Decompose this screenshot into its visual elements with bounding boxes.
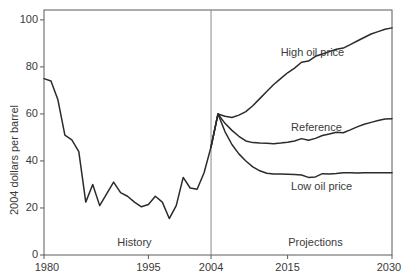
y-tick-label: 20 — [8, 201, 38, 213]
y-tick-label: 80 — [8, 60, 38, 72]
y-tick-label: 60 — [8, 107, 38, 119]
history-label: History — [117, 236, 151, 248]
x-axis-ticks — [44, 255, 392, 259]
low-oil-price-label: Low oil price — [291, 180, 352, 192]
x-tick-label: 1995 — [125, 261, 171, 273]
x-tick-label: 2030 — [366, 261, 407, 273]
y-tick-label: 40 — [8, 154, 38, 166]
y-tick-label: 100 — [8, 13, 38, 25]
reference-label: Reference — [291, 121, 342, 133]
x-tick-label: 2015 — [265, 261, 311, 273]
chart-canvas — [0, 0, 407, 277]
y-axis-ticks — [40, 20, 44, 255]
high-oil-price-label: High oil price — [281, 46, 345, 58]
x-tick-label: 2004 — [188, 261, 234, 273]
projections-label: Projections — [288, 236, 342, 248]
oil-price-projection-chart: 2004 dollars per barrel 020406080100 198… — [0, 0, 407, 277]
x-tick-label: 1980 — [24, 261, 70, 273]
y-tick-label: 0 — [8, 248, 38, 260]
series-line-history — [44, 79, 211, 219]
